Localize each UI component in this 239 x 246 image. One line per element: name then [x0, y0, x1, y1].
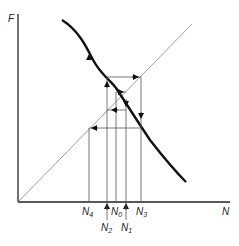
tick-label-n3: N3: [136, 206, 147, 218]
replacement-diagonal: [18, 24, 192, 202]
x-axis-label: N: [222, 206, 230, 217]
cobweb-diagram: F N N4 N0 N3 N2 N1: [0, 0, 239, 246]
cobweb-arrows: [89, 55, 141, 210]
recruitment-curve: [62, 20, 186, 182]
y-axis-label: F: [8, 13, 15, 24]
tick-label-n4: N4: [82, 206, 93, 218]
vertical-lines: [89, 77, 141, 202]
tick-label-n0: N0: [111, 206, 122, 218]
tick-label-n1: N1: [121, 222, 132, 234]
tick-label-n2: N2: [101, 222, 112, 234]
